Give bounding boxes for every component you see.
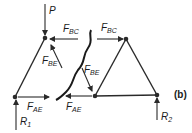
label-r2: R2: [161, 111, 172, 123]
label-fbc-left: FBC: [63, 23, 80, 35]
label-fae-right: FAE: [66, 101, 82, 113]
member-right-right-diagonal: [126, 39, 157, 95]
truss-diagram: P FBC FBE FAE R1 FBC FBE FAE R2: [0, 0, 192, 133]
label-r1: R1: [20, 116, 31, 128]
node-right-bottom-mid: [93, 94, 98, 99]
panel-label: (b): [174, 89, 187, 100]
node-left-top: [43, 36, 48, 41]
member-left-diagonal: [15, 38, 45, 97]
label-fae-left: FAE: [27, 101, 43, 113]
member-right-left-diagonal: [95, 39, 126, 96]
node-right-bottom: [155, 93, 160, 98]
node-right-top: [124, 37, 129, 42]
member-right-bottom-chord: [95, 95, 157, 96]
label-fbc-right: FBC: [101, 22, 118, 34]
right-free-body: FBC FBE FAE R2: [66, 22, 172, 123]
label-fbe-right: FBE: [84, 64, 100, 76]
label-p: P: [49, 5, 56, 16]
node-left-bottom: [13, 95, 18, 100]
label-fbe-left: FBE: [42, 55, 58, 67]
